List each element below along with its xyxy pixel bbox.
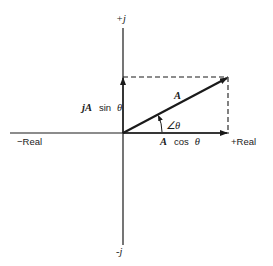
positive-real-label: +Real (231, 136, 256, 147)
positive-imaginary-label: +j (116, 13, 126, 24)
imaginary-var: θ (117, 102, 122, 113)
angle-arc-icon (159, 116, 163, 132)
angle-label: ∠θ (166, 120, 180, 131)
phasor-diagram: +j -j −Real +Real A ∠θ jA sin θ A cos θ (0, 0, 273, 266)
imaginary-prefix: jA (80, 102, 92, 113)
negative-real-label: −Real (17, 136, 42, 147)
vector-label: A (173, 90, 181, 101)
real-func: cos (174, 136, 189, 147)
negative-imaginary-label: -j (116, 246, 122, 257)
imaginary-component-label: jA sin θ (80, 97, 122, 114)
real-var: θ (195, 136, 200, 147)
imaginary-func: sin (99, 102, 111, 113)
real-prefix: A (159, 136, 167, 147)
